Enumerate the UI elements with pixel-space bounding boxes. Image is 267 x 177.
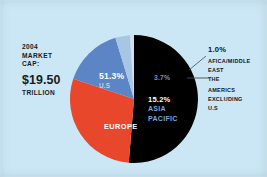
callout-labels: 1.0% AFICA/MIDDLE EAST THE AMERICS EXCLU… — [208, 45, 266, 113]
callout-americas-line-4: U.S — [208, 104, 266, 113]
slide-canvas: 2004 MARKET CAP: $19.50 TRILLION 51.3% U… — [0, 0, 267, 177]
pie-slice-us — [129, 35, 198, 163]
callout-americas-line-3: EXCLUDING — [208, 95, 266, 104]
callout-americas-line-1: THE — [208, 75, 266, 84]
pie-chart: 51.3% U.S EUROPE 28.8% 15.2% ASIA PACIFI… — [68, 33, 200, 165]
callout-africa-pct: 1.0% — [208, 45, 266, 54]
pie-chart-svg — [68, 33, 200, 165]
callout-africa-line-1: AFICA/MIDDLE — [208, 57, 266, 66]
callout-africa-line-2: EAST — [208, 66, 266, 75]
callout-americas-line-2: AMERICS — [208, 86, 266, 95]
